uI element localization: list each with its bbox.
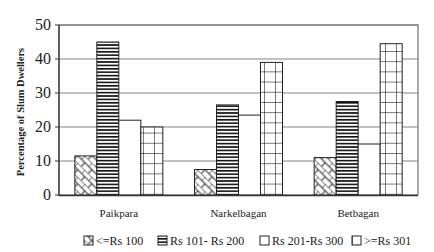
y-tick-label: 20 bbox=[35, 118, 51, 135]
legend-label: Rs 201-Rs 300 bbox=[272, 234, 343, 248]
y-axis-title: Percentage of Slum Dwellers bbox=[15, 48, 26, 176]
y-tick-label: 50 bbox=[35, 16, 51, 33]
bar bbox=[239, 115, 261, 195]
legend-label: <=Rs 100 bbox=[96, 234, 143, 248]
y-tick-label: 30 bbox=[35, 84, 51, 101]
x-tick-label: Paikpara bbox=[100, 207, 139, 219]
bar-chart: 01020304050 PaikparaNarkelbaganBetbagan … bbox=[0, 0, 434, 252]
y-tick-label: 10 bbox=[35, 152, 51, 169]
bar bbox=[141, 127, 163, 195]
bar bbox=[119, 120, 141, 195]
x-axis-labels: PaikparaNarkelbaganBetbagan bbox=[100, 207, 380, 219]
legend-swatch bbox=[260, 236, 269, 245]
legend-swatch bbox=[158, 236, 167, 245]
bar bbox=[336, 102, 358, 196]
legend-swatch bbox=[352, 236, 361, 245]
bar bbox=[261, 62, 283, 195]
chart-canvas: 01020304050 PaikparaNarkelbaganBetbagan … bbox=[0, 0, 434, 252]
bar bbox=[195, 170, 217, 196]
legend-label: Rs 101- Rs 200 bbox=[170, 234, 244, 248]
y-axis-ticks: 01020304050 bbox=[35, 16, 59, 203]
bar bbox=[75, 156, 97, 195]
bars bbox=[75, 42, 402, 195]
y-tick-label: 0 bbox=[43, 186, 51, 203]
x-tick-label: Narkelbagan bbox=[210, 207, 267, 219]
y-tick-label: 40 bbox=[35, 50, 51, 67]
legend: <=Rs 100Rs 101- Rs 200Rs 201-Rs 300>=Rs … bbox=[84, 234, 411, 248]
bar bbox=[380, 44, 402, 195]
bar bbox=[314, 158, 336, 195]
bar bbox=[97, 42, 119, 195]
bar bbox=[358, 144, 380, 195]
x-tick-label: Betbagan bbox=[337, 207, 379, 219]
legend-label: >=Rs 301 bbox=[364, 234, 411, 248]
legend-swatch bbox=[84, 236, 93, 245]
bar bbox=[217, 105, 239, 195]
